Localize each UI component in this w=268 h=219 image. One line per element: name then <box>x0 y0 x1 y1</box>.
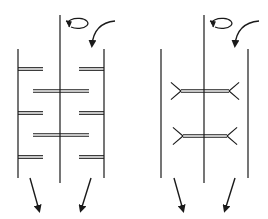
impeller-2 <box>33 134 89 137</box>
pitched-blade <box>173 127 183 136</box>
outflow-arrow-icon <box>174 178 183 210</box>
mixing-vessel-diagram <box>0 0 268 219</box>
outflow-arrow-icon <box>225 178 235 210</box>
rotation-arrowhead-icon <box>66 21 71 27</box>
pitched-blade <box>173 136 183 145</box>
wall-baffle-left <box>18 112 43 115</box>
outflow-arrow-icon <box>81 178 91 210</box>
impeller-1 <box>181 90 229 93</box>
rotation-arrowhead-icon <box>210 21 215 27</box>
wall-baffle-left <box>18 156 43 159</box>
impeller-2 <box>183 135 227 138</box>
wall-baffle-right <box>79 112 104 115</box>
vessel-pitched-impellers <box>161 15 259 210</box>
pitched-blade <box>227 127 237 136</box>
wall-baffle-right <box>79 156 104 159</box>
wall-baffle-left <box>18 68 43 71</box>
pitched-blade <box>171 82 181 91</box>
outflow-arrow-icon <box>30 178 39 210</box>
inflow-arrow-icon <box>92 21 115 45</box>
pitched-blade <box>227 136 237 145</box>
impeller-1 <box>33 90 89 93</box>
baffled-vessel-flat-impellers <box>18 15 115 210</box>
pitched-blade <box>171 91 181 100</box>
wall-baffle-right <box>79 68 104 71</box>
inflow-arrow-icon <box>235 21 259 45</box>
pitched-blade <box>229 91 239 100</box>
pitched-blade <box>229 82 239 91</box>
